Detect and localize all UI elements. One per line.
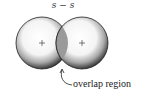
orbital-overlap-figure: s − s overlap region xyxy=(0,0,142,98)
overlap-label: overlap region xyxy=(73,78,131,89)
callout-arrow-icon xyxy=(61,70,72,85)
diagram-title: s − s xyxy=(48,0,78,10)
